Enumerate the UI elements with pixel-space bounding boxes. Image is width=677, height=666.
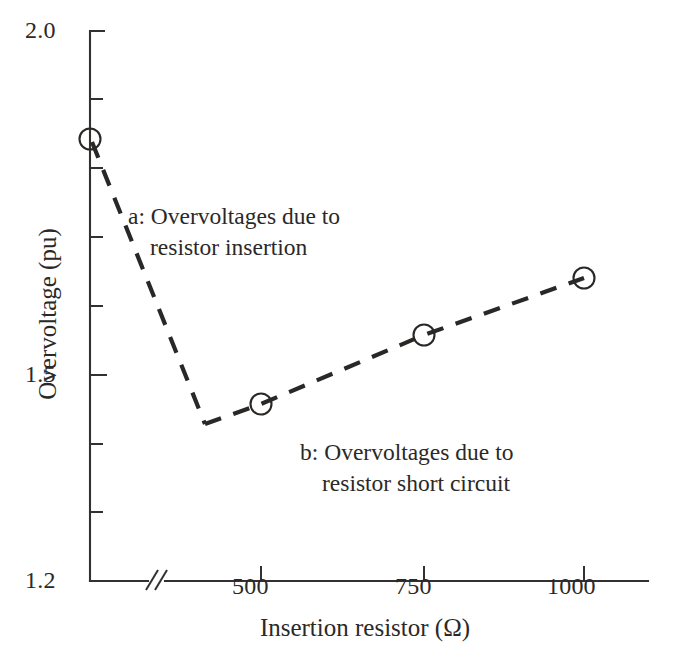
marker-point-500 — [251, 394, 272, 415]
marker-point-0 — [80, 129, 101, 150]
marker-point-1000 — [574, 268, 595, 289]
marker-point-750 — [414, 325, 435, 346]
y-minor-ticks — [90, 99, 103, 512]
x-tick-label-500: 500 — [232, 573, 269, 600]
x-tick-label-1000: 1000 — [547, 573, 596, 600]
x-axis-break-icon — [146, 570, 167, 590]
annotation-a-line1: a: Overvoltages due to — [128, 203, 340, 229]
annotation-b-line1: b: Overvoltages due to — [300, 439, 513, 465]
annotation-a: a: Overvoltages due to resistor insertio… — [128, 170, 340, 294]
y-tick-label-bottom: 1.2 — [25, 567, 56, 594]
annotation-a-line2: resistor insertion — [128, 232, 340, 263]
x-tick-label-750: 750 — [395, 573, 432, 600]
chart-figure: 2.0 1.5 1.2 500 750 1000 Overvoltage (pu… — [0, 0, 677, 666]
annotation-b-line2: resistor short circuit — [300, 468, 513, 499]
annotation-b: b: Overvoltages due to resistor short ci… — [300, 406, 513, 530]
y-axis-title: Overvoltage (pu) — [34, 204, 62, 424]
y-tick-label-top: 2.0 — [25, 17, 56, 44]
plot-canvas — [0, 0, 677, 666]
x-axis-title: Insertion resistor (Ω) — [130, 614, 600, 642]
